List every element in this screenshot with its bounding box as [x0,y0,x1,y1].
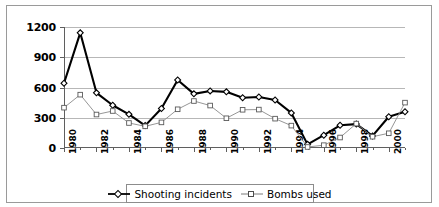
x-axis-tick [194,148,195,152]
x-axis-tick [324,148,325,152]
data-point-diamond [223,89,229,95]
x-axis-tick [129,148,130,152]
data-point-square [208,103,213,108]
data-point-square [78,92,83,97]
y-axis-label: 0 [0,142,56,155]
series-lines [64,27,405,148]
x-axis-tick [275,148,276,150]
series-line [64,33,405,145]
x-axis-tick [243,148,244,150]
y-axis-label: 1200 [0,21,56,34]
y-axis-label: 600 [0,81,56,94]
x-axis-tick [340,148,341,150]
x-axis-tick [259,148,260,152]
x-axis-tick [80,148,81,150]
data-point-square [403,100,408,105]
data-point-square [370,134,375,139]
data-point-square [338,135,343,140]
data-point-diamond [240,95,246,101]
x-axis-tick [226,148,227,152]
data-point-diamond [256,94,262,100]
x-axis-tick [64,148,65,152]
top-cropped-text [0,0,439,4]
x-axis-tick [96,148,97,152]
data-point-square [110,109,115,114]
y-axis-label: 900 [0,51,56,64]
diamond-marker-icon [108,189,130,199]
x-axis-tick [373,148,374,150]
legend-label-bombs-used: Bombs used [267,188,332,200]
legend-label-shooting-incidents: Shooting incidents [134,188,232,200]
x-axis-tick [210,148,211,150]
x-axis-tick [291,148,292,152]
data-point-square [94,112,99,117]
data-point-square [62,105,67,110]
data-point-square [240,107,245,112]
x-axis-tick [389,148,390,152]
data-point-square [127,121,132,126]
legend-item-shooting-incidents: Shooting incidents [108,188,232,200]
data-point-square [386,131,391,136]
data-point-square [273,116,278,121]
y-axis-label: 300 [0,111,56,124]
chart-legend: Shooting incidents Bombs used [126,184,314,203]
x-axis-tick [113,148,114,150]
square-marker-icon [241,189,263,199]
legend-item-bombs-used: Bombs used [241,188,332,200]
x-axis-tick [356,148,357,152]
x-axis-tick [145,148,146,150]
x-axis-tick [405,148,406,150]
data-point-square [305,145,310,150]
data-point-square [192,99,197,104]
data-point-square [322,143,327,148]
data-point-square [257,107,262,112]
data-point-square [354,121,359,126]
x-axis-tick [161,148,162,152]
data-point-square [175,107,180,112]
data-point-square [289,123,294,128]
data-point-square [143,124,148,129]
series-line [64,95,405,147]
data-point-diamond [77,30,83,36]
chart-screenshot: 03006009001200 1980198219841986198819901… [0,0,439,207]
data-point-diamond [207,88,213,94]
data-point-square [159,120,164,125]
data-point-square [224,116,229,121]
x-axis-tick [178,148,179,150]
